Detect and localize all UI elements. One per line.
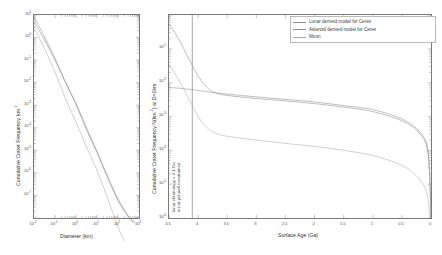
right-ytick-5: 10-6 — [159, 215, 166, 219]
right-xtick-5: 2 — [312, 222, 314, 226]
right-ytick-0: 10-1 — [159, 45, 166, 49]
legend-item-label: Asteroid derived model for Ceres — [309, 28, 376, 33]
right-xaxis-title: Surface Age (Ga) — [278, 233, 318, 238]
left-ytick-7: 10-6 — [24, 169, 31, 173]
right-panel: 10-110-210-310-410-510-6 4.543.532.521.5… — [150, 0, 442, 255]
right-xtick-8: 0.5 — [398, 222, 403, 226]
right-yaxis-title-sup: -2 — [150, 109, 154, 112]
right-xtick-2: 3.5 — [224, 222, 229, 226]
left-ytick-5: 10-4 — [24, 124, 31, 128]
left-xtick-1: 10-1 — [51, 222, 58, 226]
right-yaxis-title-tail: ) at D=1km — [151, 84, 157, 110]
left-xtick-5: 103 — [135, 222, 141, 226]
right-xtick-6: 1.5 — [340, 222, 345, 226]
right-ytick-1: 10-2 — [159, 79, 166, 83]
left-xtick-2: 100 — [72, 222, 78, 226]
left-ytick-6: 10-5 — [24, 147, 31, 151]
left-ytick-4: 10-3 — [24, 102, 31, 106]
legend-item-0: Lunar derived model for Ceres — [293, 19, 432, 26]
left-yaxis-title: Cumulative Crater Frequency, km-2 — [16, 106, 21, 186]
right-plot-frame — [168, 14, 432, 219]
legend-item-label: Moon — [309, 35, 321, 40]
left-yaxis-title-text: Cumulative Crater Frequency, km — [15, 109, 21, 186]
right-xtick-4: 2.5 — [282, 222, 287, 226]
left-xtick-3: 101 — [93, 222, 99, 226]
right-axis-ticks — [169, 15, 431, 218]
left-panel: 10110010-110-210-310-410-510-610-7 10-21… — [0, 0, 150, 255]
right-xtick-3: 3 — [254, 222, 256, 226]
left-xtick-4: 102 — [114, 222, 120, 226]
left-plot-frame — [33, 14, 140, 219]
legend-item-1: Asteroid derived model for Ceres — [293, 26, 432, 33]
figure-root: 10110010-110-210-310-410-510-610-7 10-21… — [0, 0, 442, 255]
legend: Lunar derived model for CeresAsteroid de… — [290, 16, 436, 43]
right-xtick-7: 1 — [371, 222, 373, 226]
right-ytick-2: 10-3 — [159, 113, 166, 117]
right-yaxis-title-text: Cumulative Crater Frequency N(km — [151, 112, 157, 194]
right-xtick-9: 0 — [429, 222, 431, 226]
legend-item-2: Moon — [293, 34, 432, 41]
left-ytick-0: 101 — [25, 12, 31, 16]
left-xtick-0: 10-2 — [30, 222, 37, 226]
right-yaxis-title: Cumulative Crater Frequency N(km-2) at D… — [152, 84, 157, 194]
right-ytick-3: 10-4 — [159, 147, 166, 151]
left-ytick-3: 10-2 — [24, 79, 31, 83]
left-yaxis-title-sup: -2 — [14, 106, 18, 109]
left-ytick-8: 10-7 — [24, 192, 31, 196]
legend-line-swatch — [293, 37, 306, 38]
right-ytick-4: 10-5 — [159, 181, 166, 185]
left-axis-ticks — [34, 15, 139, 218]
left-ytick-2: 10-1 — [24, 57, 31, 61]
legend-item-label: Lunar derived model for Ceres — [309, 20, 371, 25]
left-xaxis-title: Diameter (km) — [60, 234, 93, 239]
legend-line-swatch — [293, 22, 306, 23]
chronology-annotation-line2: is not yet well constrained — [176, 163, 181, 212]
right-xtick-0: 4.5 — [165, 222, 170, 226]
legend-line-swatch — [293, 29, 306, 30]
right-xtick-1: 4 — [196, 222, 198, 226]
left-ytick-1: 100 — [25, 34, 31, 38]
